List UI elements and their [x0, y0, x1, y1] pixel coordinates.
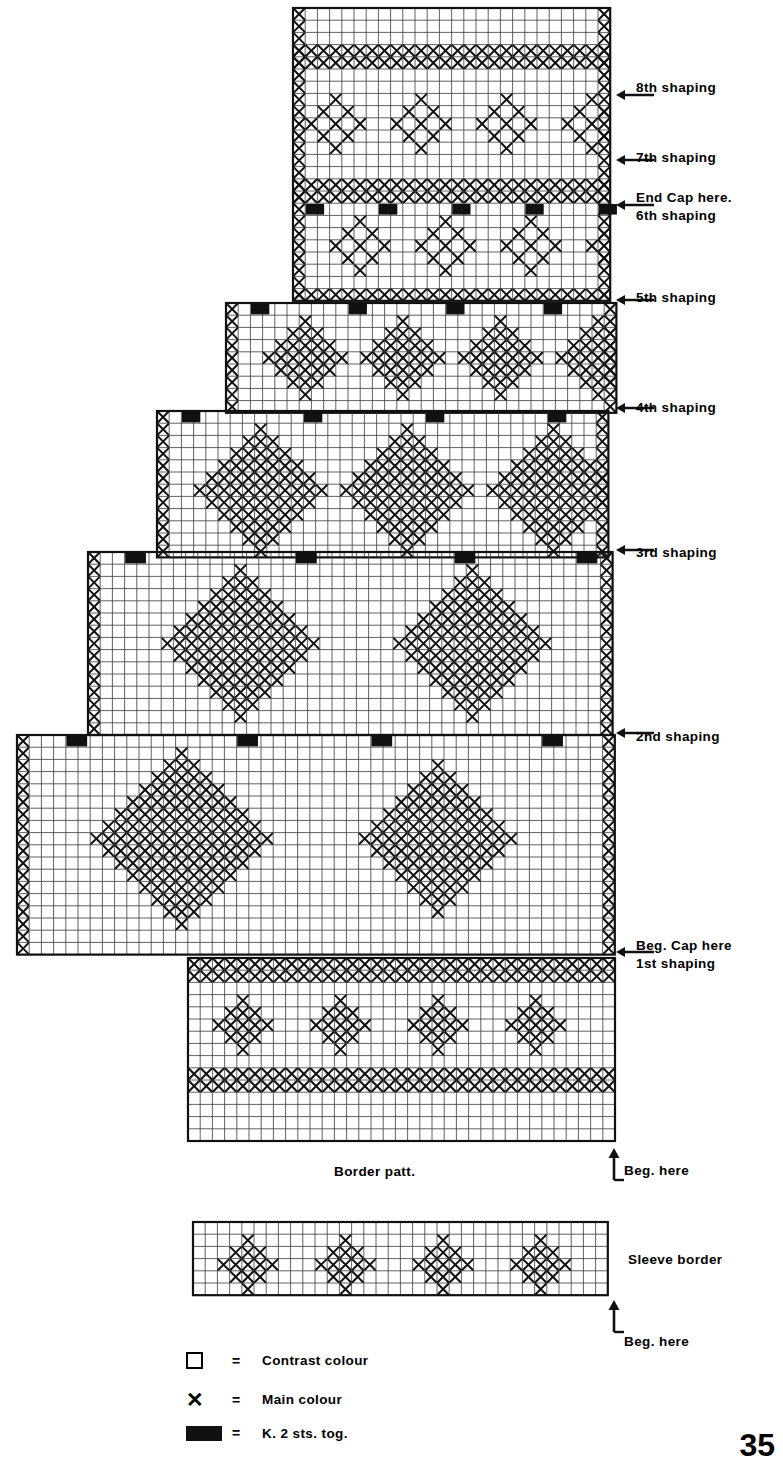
legend-row-main: ✕ = Main colour	[186, 1389, 342, 1410]
legend-label-decrease: K. 2 sts. tog.	[262, 1426, 348, 1441]
label-8th-shaping: 8th shaping	[636, 80, 716, 96]
label-4th-shaping: 4th shaping	[636, 400, 716, 416]
open-square-icon	[186, 1352, 232, 1369]
knitting-chart-page: 8th shaping 7th shaping End Cap here. 6t…	[0, 0, 783, 1468]
label-end-cap-here: End Cap here.	[636, 190, 732, 206]
legend-label-main: Main colour	[262, 1392, 342, 1407]
legend-equals-2: =	[232, 1392, 262, 1408]
label-5th-shaping: 5th shaping	[636, 290, 716, 306]
filled-block-icon	[186, 1426, 232, 1441]
legend-equals-3: =	[232, 1425, 262, 1441]
label-beg-here-sleeve: Beg. here	[624, 1334, 689, 1350]
label-6th-shaping: 6th shaping	[636, 208, 716, 224]
label-7th-shaping: 7th shaping	[636, 150, 716, 166]
label-2nd-shaping: 2nd shaping	[636, 729, 720, 745]
legend-label-contrast: Contrast colour	[262, 1353, 369, 1368]
legend-row-contrast: = Contrast colour	[186, 1352, 369, 1369]
x-mark-icon: ✕	[186, 1389, 232, 1410]
label-sleeve-border: Sleeve border	[628, 1252, 723, 1268]
label-border-patt: Border patt.	[334, 1164, 415, 1180]
label-beg-cap-here: Beg. Cap here	[636, 938, 732, 954]
legend-equals-1: =	[232, 1353, 262, 1369]
label-beg-here-main: Beg. here	[624, 1163, 689, 1179]
label-1st-shaping: 1st shaping	[636, 956, 715, 972]
label-3rd-shaping: 3rd shaping	[636, 545, 717, 561]
page-number: 35	[739, 1427, 775, 1464]
legend-row-decrease: = K. 2 sts. tog.	[186, 1425, 348, 1441]
